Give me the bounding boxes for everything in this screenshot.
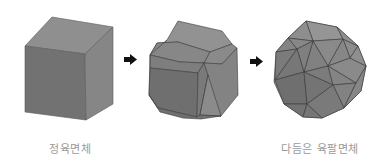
arrow-right-icon bbox=[124, 54, 137, 65]
snub-cuboctahedron-label: 다듬은 육팔면체 bbox=[281, 140, 359, 156]
cube-label: 정육면체 bbox=[49, 140, 91, 156]
arrow-right-icon bbox=[250, 56, 263, 67]
intermediate-polyhedron-shape bbox=[149, 21, 238, 119]
snub-cuboctahedron-shape bbox=[274, 21, 366, 118]
polyhedron-transformation-figure: 정육면체 다듬은 육팔면체 bbox=[0, 0, 390, 167]
cube-shape bbox=[25, 17, 113, 120]
